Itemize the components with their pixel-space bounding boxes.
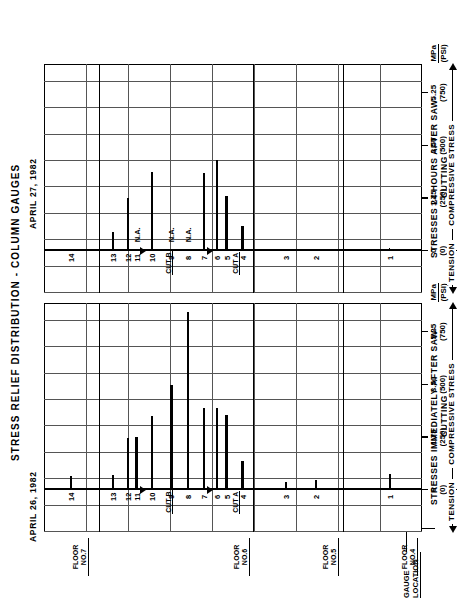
floor-separator (99, 64, 100, 293)
axis-tick (422, 92, 428, 93)
not-available-label: N.A. (132, 227, 141, 242)
stress-bar (135, 437, 137, 490)
cut-label: CUT A (232, 491, 240, 514)
stress-bar (241, 226, 243, 251)
tick-mpa: 3.50 (429, 377, 438, 393)
gridline-vertical (44, 187, 422, 188)
gauge-number-label: 12 (123, 254, 132, 262)
gridline-horizontal (338, 303, 339, 532)
gauge-number-label: 6 (213, 256, 222, 260)
stress-bar (285, 482, 287, 490)
gridline-horizontal (296, 303, 297, 532)
tick-mpa: 3.50 (429, 138, 438, 154)
tick-mpa: 1.75 (429, 190, 438, 206)
axis-tick-label: 1.75(250) (429, 428, 447, 447)
axis-tick-label: 0(0) (429, 246, 447, 256)
floor-separator (253, 64, 254, 293)
stress-bar (127, 438, 129, 490)
gauge-number-label: 3 (281, 495, 290, 499)
floor-separator (253, 303, 254, 532)
gauge-number-label: 12 (123, 493, 132, 501)
panel-date-april27: APRIL 27, 1982 (28, 158, 38, 229)
axis-unit-label: MPa(PSI) (429, 283, 448, 301)
figure-page: STRESS RELIEF DISTRIBUTION - COLUMN GAUG… (0, 0, 473, 604)
stress-bar (216, 408, 218, 490)
stress-bar (127, 198, 129, 250)
gauge-number-label: 13 (109, 493, 118, 501)
unit-psi: (PSI) (439, 44, 448, 62)
gridline-vertical (44, 213, 422, 214)
axis-tick-label: 3.50(500) (429, 375, 447, 394)
panel-date-april26: APRIL 26, 1982 (28, 471, 38, 542)
tick-psi: (0) (438, 485, 447, 495)
stress-bar (389, 248, 391, 251)
gauge-number-label: 1 (385, 256, 394, 260)
gauge-number-label: 2 (312, 256, 321, 260)
cut-label: CUT B (165, 490, 173, 513)
gauge-number-label: 13 (109, 254, 118, 262)
stress-bar (203, 173, 205, 251)
gauge-number-label: 5 (222, 256, 231, 260)
not-available-label: N.A. (167, 227, 176, 242)
stress-bar (315, 480, 317, 490)
axis-unit-label: MPa(PSI) (429, 44, 448, 62)
tick-psi: (250) (438, 189, 447, 208)
figure-title: STRESS RELIEF DISTRIBUTION - COLUMN GAUG… (10, 164, 21, 461)
gridline-vertical (44, 81, 422, 82)
gridline-vertical (44, 346, 422, 347)
gauge-number-label: 11 (132, 493, 141, 501)
compressive-stress-label: COMPRESSIVE STRESS (447, 360, 456, 468)
unit-psi: (PSI) (439, 283, 448, 301)
stress-bar (151, 416, 153, 490)
floor-label: FLOOR NO.7 (72, 538, 89, 576)
floor-separator (343, 303, 344, 532)
stress-bar (203, 408, 205, 490)
not-available-label: N.A. (184, 227, 193, 242)
gridline-horizontal (380, 64, 381, 293)
gridline-horizontal (86, 64, 87, 293)
axis-tick-label: 5.25(750) (429, 322, 447, 341)
stress-bar (70, 249, 72, 251)
stress-bar (187, 312, 189, 490)
floor-label: FLOOR NO.5 (322, 538, 339, 576)
tick-mpa: 1.75 (429, 429, 438, 445)
gauge-number-label: 11 (132, 254, 141, 262)
gridline-vertical (44, 531, 422, 532)
tick-psi: (0) (438, 246, 447, 256)
axis-tick (422, 331, 428, 332)
gridline-vertical (44, 478, 422, 479)
axis-tick-label: 0(0) (429, 485, 447, 495)
gauge-number-label: 10 (147, 254, 156, 262)
gridline-vertical (44, 134, 422, 135)
gridline-vertical (44, 292, 422, 293)
tick-psi: (500) (438, 136, 447, 155)
gridline-vertical (44, 239, 422, 240)
tick-psi: (750) (438, 83, 447, 102)
gauge-number-label: 14 (67, 493, 76, 501)
tension-label: TENSION (447, 479, 456, 524)
gridline-vertical (44, 160, 422, 161)
gauge-number-label: 7 (200, 495, 209, 499)
gauge-number-label: 14 (67, 254, 76, 262)
axis-tick (422, 145, 428, 146)
gridline-vertical (44, 107, 422, 108)
arrow-right-icon (449, 302, 457, 309)
gridline-vertical (44, 373, 422, 374)
stress-bar (112, 475, 114, 490)
tension-label: TENSION (447, 240, 456, 285)
stress-bar (315, 249, 317, 251)
floor-label: FLOOR NO.4 (401, 538, 418, 576)
gauge-number-label: 2 (312, 495, 321, 499)
gridline-vertical (44, 452, 422, 453)
unit-mpa: MPa (429, 44, 439, 62)
stress-bar (389, 474, 391, 490)
stress-bar (170, 385, 172, 490)
gauge-number-label: 10 (147, 493, 156, 501)
gridline-vertical (44, 426, 422, 427)
floor-separator (343, 64, 344, 293)
compressive-stress-label: COMPRESSIVE STRESS (447, 121, 456, 229)
axis-tick (422, 436, 428, 437)
axis-tick (422, 197, 428, 198)
axis-tick-label: 5.25(750) (429, 83, 447, 102)
stress-bar (216, 160, 218, 251)
